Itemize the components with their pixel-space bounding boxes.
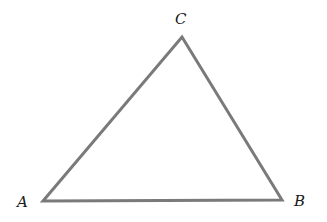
vertex-label-b: B (294, 194, 305, 209)
triangle-abc (43, 37, 282, 201)
vertex-label-c: C (175, 12, 186, 27)
triangle-shape (0, 0, 327, 222)
triangle-diagram: C A B (0, 0, 327, 222)
vertex-label-a: A (17, 195, 28, 210)
